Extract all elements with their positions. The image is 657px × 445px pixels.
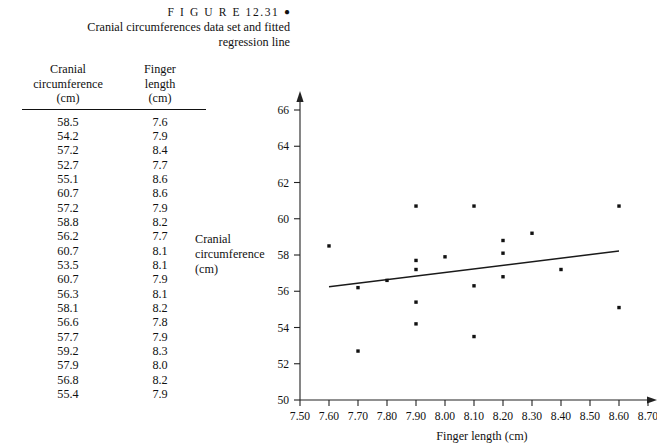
cell-finger-length: 7.9: [114, 272, 206, 286]
cell-cranial-circumference: 58.5: [22, 109, 114, 129]
table-header-row: Cranial circumference (cm) Finger length…: [22, 62, 206, 109]
table-row: 58.88.2: [22, 215, 206, 229]
cell-cranial-circumference: 57.9: [22, 358, 114, 372]
cell-cranial-circumference: 56.3: [22, 287, 114, 301]
caption-line-1: Cranial circumferences data set and fitt…: [18, 20, 290, 35]
figure-caption: F I G U R E 12.31 ● Cranial circumferenc…: [18, 6, 290, 50]
table-row: 57.77.9: [22, 330, 206, 344]
data-point: [472, 284, 475, 287]
figure-number-line: F I G U R E 12.31 ●: [18, 6, 290, 18]
x-axis-tick-label: 8.70: [638, 410, 657, 423]
table-body: 58.57.654.27.957.28.452.77.755.18.660.78…: [22, 109, 206, 401]
y-axis-tick-label: 66: [277, 104, 289, 117]
x-axis-tick-label: 8.50: [580, 410, 600, 423]
cell-finger-length: 7.9: [114, 129, 206, 143]
data-point: [617, 204, 620, 207]
figure-number: 12.31: [246, 6, 280, 18]
table-row: 60.77.9: [22, 272, 206, 286]
x-axis-tick-label: 7.70: [348, 410, 368, 423]
cell-finger-length: 8.1: [114, 258, 206, 272]
x-axis-title: Finger length (cm): [436, 429, 527, 443]
cell-cranial-circumference: 56.6: [22, 315, 114, 329]
data-point: [414, 300, 417, 303]
cell-finger-length: 7.6: [114, 109, 206, 129]
x-axis-tick-label: 8.20: [493, 410, 513, 423]
cell-cranial-circumference: 59.2: [22, 344, 114, 358]
data-point: [414, 259, 417, 262]
cell-cranial-circumference: 58.8: [22, 215, 114, 229]
x-axis-tick-label: 7.60: [319, 410, 339, 423]
cell-finger-length: 8.1: [114, 287, 206, 301]
table-row: 60.78.6: [22, 186, 206, 200]
data-point: [501, 275, 504, 278]
data-point: [472, 204, 475, 207]
cell-cranial-circumference: 58.1: [22, 301, 114, 315]
cell-finger-length: 8.2: [114, 373, 206, 387]
figure-caption-text: Cranial circumferences data set and fitt…: [18, 20, 290, 50]
data-point: [617, 306, 620, 309]
table-row: 53.58.1: [22, 258, 206, 272]
table-row: 55.47.9: [22, 387, 206, 401]
figure-word: F I G U R E: [168, 6, 242, 18]
cell-finger-length: 8.6: [114, 172, 206, 186]
table-row: 52.77.7: [22, 158, 206, 172]
table-row: 58.57.6: [22, 109, 206, 129]
y-axis-label-line: Cranial: [195, 232, 231, 246]
y-axis-arrow-icon: [296, 91, 303, 102]
table-row: 56.27.7: [22, 229, 206, 243]
cell-cranial-circumference: 57.7: [22, 330, 114, 344]
data-point: [385, 279, 388, 282]
y-axis-tick-label: 52: [277, 358, 289, 371]
cell-cranial-circumference: 57.2: [22, 201, 114, 215]
x-axis-tick-label: 7.80: [377, 410, 397, 423]
chart-canvas: Cranialcircumference(cm)5052545658606264…: [195, 88, 657, 445]
data-point: [327, 244, 330, 247]
cell-finger-length: 7.9: [114, 201, 206, 215]
y-axis-label-line: circumference: [195, 247, 265, 261]
caption-line-2: regression line: [18, 35, 290, 50]
x-axis-tick-label: 7.90: [406, 410, 426, 423]
cell-finger-length: 8.1: [114, 244, 206, 258]
y-axis-tick-label: 58: [277, 249, 289, 262]
header-line-3: (cm): [114, 91, 206, 106]
table-row: 60.78.1: [22, 244, 206, 258]
table-row: 57.28.4: [22, 143, 206, 157]
cell-finger-length: 7.9: [114, 330, 206, 344]
cell-cranial-circumference: 60.7: [22, 272, 114, 286]
header-line-1: Finger: [114, 62, 206, 77]
y-axis-tick-label: 50: [277, 394, 289, 407]
cell-cranial-circumference: 55.4: [22, 387, 114, 401]
y-axis-tick-label: 60: [277, 213, 289, 226]
cell-finger-length: 7.9: [114, 387, 206, 401]
data-table: Cranial circumference (cm) Finger length…: [22, 62, 206, 401]
table-row: 58.18.2: [22, 301, 206, 315]
table-row: 59.28.3: [22, 344, 206, 358]
cell-cranial-circumference: 55.1: [22, 172, 114, 186]
data-point: [414, 204, 417, 207]
data-point: [559, 268, 562, 271]
x-axis-tick-label: 8.00: [435, 410, 455, 423]
x-axis-tick-label: 8.10: [464, 410, 484, 423]
y-axis-tick-label: 56: [277, 285, 289, 298]
cell-cranial-circumference: 56.8: [22, 373, 114, 387]
table-row: 56.38.1: [22, 287, 206, 301]
y-axis-label-line: (cm): [195, 262, 218, 276]
data-point: [414, 322, 417, 325]
y-axis-tick-label: 54: [277, 322, 289, 335]
cell-finger-length: 8.3: [114, 344, 206, 358]
header-line-2: circumference: [22, 77, 114, 92]
x-axis-tick-label: 8.60: [609, 410, 629, 423]
cell-cranial-circumference: 53.5: [22, 258, 114, 272]
table-row: 54.27.9: [22, 129, 206, 143]
column-header-finger-length: Finger length (cm): [114, 62, 206, 109]
cell-finger-length: 8.2: [114, 215, 206, 229]
column-header-cranial-circumference: Cranial circumference (cm): [22, 62, 114, 109]
data-point: [356, 349, 359, 352]
x-axis-tick-label: 8.40: [551, 410, 571, 423]
data-point: [530, 232, 533, 235]
header-line-3: (cm): [22, 91, 114, 106]
x-axis-tick-label: 8.30: [522, 410, 542, 423]
header-line-2: length: [114, 77, 206, 92]
regression-line: [329, 251, 619, 287]
cell-cranial-circumference: 56.2: [22, 229, 114, 243]
